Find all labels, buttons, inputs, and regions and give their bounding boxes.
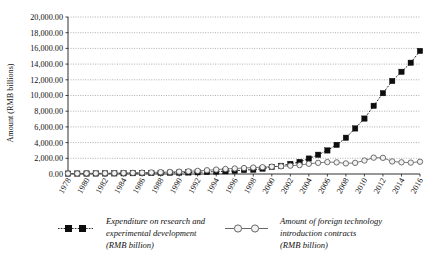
legend-label-ft-line2: introduction contracts: [280, 228, 357, 238]
legend-label-rd-line2: experimental development: [106, 228, 197, 238]
legend-marker-circle-ft-2: [251, 225, 258, 232]
legend-marker-circle-ft-1: [234, 225, 241, 232]
legend-label-ft-line3: (RMB billion): [280, 240, 328, 250]
legend-label-rd-line1: Expenditure on research and: [105, 216, 206, 226]
legend-entry-foreign-tech: Amount of foreign technology introductio…: [225, 216, 382, 250]
legend-marker-square-rd-1: [65, 225, 72, 232]
chart-legend: Expenditure on research and experimental…: [0, 0, 435, 264]
chart-figure: 20,000.0018,000.0016,000.0014,000.0012,0…: [0, 0, 435, 264]
legend-marker-square-rd-2: [79, 225, 86, 232]
legend-label-rd-line3: (RMB billion): [106, 240, 154, 250]
legend-label-ft-line1: Amount of foreign technology: [279, 216, 382, 226]
legend-entry-rd: Expenditure on research and experimental…: [58, 216, 206, 250]
